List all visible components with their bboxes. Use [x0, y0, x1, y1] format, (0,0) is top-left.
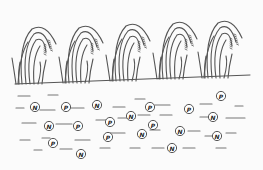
nitrogen-nutrient-icon: N [208, 112, 217, 121]
phosphorus-nutrient-icon: P [216, 91, 225, 100]
rice-plant-icon [198, 21, 242, 78]
nitrogen-nutrient-icon: N [44, 121, 53, 130]
phosphorus-nutrient-icon: P [103, 132, 112, 141]
nitrogen-nutrient-icon: N [137, 129, 146, 138]
phosphorus-nutrient-icon: P [73, 121, 82, 130]
svg-text:N: N [139, 131, 144, 138]
rice-plant-icon [12, 27, 56, 84]
phosphorus-nutrient-icon: P [61, 102, 70, 111]
svg-text:P: P [106, 134, 111, 141]
svg-text:P: P [148, 104, 153, 111]
svg-text:N: N [78, 151, 83, 158]
phosphorus-nutrient-icon: P [148, 120, 157, 129]
svg-text:N: N [177, 128, 182, 135]
nitrogen-nutrient-icon: N [175, 126, 184, 135]
svg-text:P: P [108, 119, 113, 126]
phosphorus-nutrient-icon: P [184, 104, 193, 113]
phosphorus-nutrient-icon: P [145, 102, 154, 111]
nitrogen-nutrient-icon: N [92, 100, 101, 109]
svg-text:P: P [187, 106, 192, 113]
rice-plant-icon [153, 22, 197, 79]
svg-text:P: P [151, 122, 156, 129]
rice-nutrient-diagram: NPNPPPNPPNPNNNNPPNN [0, 0, 263, 170]
nitrogen-nutrient-icon: N [76, 149, 85, 158]
svg-text:P: P [51, 140, 56, 147]
nitrogen-nutrient-icon: N [30, 102, 39, 111]
svg-text:N: N [128, 113, 133, 120]
svg-text:N: N [210, 114, 215, 121]
svg-text:P: P [76, 123, 81, 130]
rice-plant-icon [106, 24, 150, 81]
rice-plant-icon [59, 26, 103, 83]
phosphorus-nutrient-icon: P [105, 117, 114, 126]
rice-plants [12, 21, 242, 84]
nitrogen-nutrient-icon: N [167, 143, 176, 152]
svg-text:P: P [219, 93, 224, 100]
svg-text:N: N [214, 133, 219, 140]
svg-text:N: N [46, 123, 51, 130]
svg-text:N: N [32, 104, 37, 111]
phosphorus-nutrient-icon: P [48, 138, 57, 147]
nitrogen-nutrient-icon: N [126, 111, 135, 120]
svg-text:N: N [94, 102, 99, 109]
svg-text:N: N [169, 145, 174, 152]
nitrogen-nutrient-icon: N [212, 131, 221, 140]
svg-text:P: P [64, 104, 69, 111]
